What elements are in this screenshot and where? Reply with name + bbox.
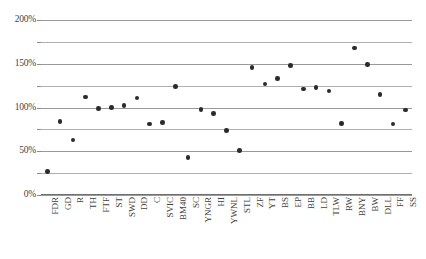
y-tick-label: 200%: [15, 15, 36, 25]
x-tick-label: ST: [115, 197, 124, 208]
x-tick-label: R: [76, 197, 85, 203]
gridline-50: [41, 151, 412, 152]
data-point: [314, 85, 319, 90]
data-point: [275, 76, 280, 81]
x-tick-label: LD: [320, 197, 329, 209]
gridline-125: [41, 86, 412, 87]
y-axis: 0%50%100%150%200%: [0, 0, 41, 195]
data-point: [71, 138, 76, 143]
data-point: [352, 46, 357, 51]
x-tick-label: STL: [243, 197, 252, 213]
x-tick-label: SWD: [128, 197, 137, 217]
y-tick-label: 100%: [15, 103, 36, 113]
x-tick-label: SS: [409, 197, 418, 207]
data-point: [135, 96, 140, 101]
x-tick-label: SC: [192, 197, 201, 208]
x-tick-label: TH: [89, 197, 98, 209]
x-tick-label: SVIC: [166, 197, 175, 218]
x-tick-label: EP: [294, 197, 303, 208]
gridline-0: [41, 195, 412, 196]
x-tick-label: YWNL: [230, 197, 239, 224]
data-point: [173, 84, 178, 89]
x-tick-label: BM40: [179, 197, 188, 220]
gridline-150: [41, 64, 412, 65]
data-point: [378, 92, 383, 97]
data-point: [391, 122, 396, 127]
x-tick-label: FF: [396, 197, 405, 207]
data-point: [339, 121, 344, 126]
data-point: [365, 62, 370, 67]
plot-area: [41, 20, 412, 195]
gridline-175: [41, 42, 412, 43]
x-tick-label: BS: [281, 197, 290, 208]
x-tick-label: YT: [268, 197, 277, 209]
x-tick-label: TLW: [332, 197, 341, 216]
data-point: [288, 63, 293, 68]
x-tick-label: FTF: [102, 197, 111, 213]
data-point: [327, 89, 332, 94]
x-tick-label: YNGR: [204, 197, 213, 223]
x-tick-label: BW: [371, 197, 380, 212]
data-point: [237, 148, 242, 153]
x-tick-label: DD: [140, 197, 149, 210]
data-point: [199, 107, 204, 112]
x-tick-label: FDR: [51, 197, 60, 215]
x-tick-label: BNY: [358, 197, 367, 216]
y-tick-label: 150%: [15, 59, 36, 69]
x-tick-label: BB: [307, 197, 316, 209]
data-point: [186, 155, 191, 160]
x-tick-label: RW: [345, 197, 354, 211]
scatter-chart: 0%50%100%150%200% FDRGDRTHFTFSTSWDDDCSVI…: [0, 0, 426, 259]
x-axis: FDRGDRTHFTFSTSWDDDCSVICBM40SCYNGRHIYWNLS…: [41, 197, 412, 257]
x-tick-label: GD: [64, 197, 73, 210]
data-point: [58, 119, 63, 124]
data-point: [45, 169, 50, 174]
data-point: [160, 120, 165, 125]
x-tick-label: C: [153, 197, 162, 203]
data-point: [250, 65, 255, 70]
data-point: [211, 111, 216, 116]
data-point: [83, 95, 88, 100]
data-point: [403, 108, 408, 113]
gridline-25: [41, 173, 412, 174]
data-point: [301, 87, 306, 92]
data-point: [96, 106, 101, 111]
y-tick-label: 0%: [24, 190, 36, 200]
x-tick-label: ZF: [256, 197, 265, 208]
data-point: [147, 122, 152, 127]
x-tick-label: HI: [217, 197, 226, 207]
x-tick-label: DLL: [384, 197, 393, 215]
data-point: [109, 105, 114, 110]
y-tick-label: 50%: [19, 147, 36, 157]
data-point: [224, 128, 229, 133]
gridline-200: [41, 20, 412, 21]
